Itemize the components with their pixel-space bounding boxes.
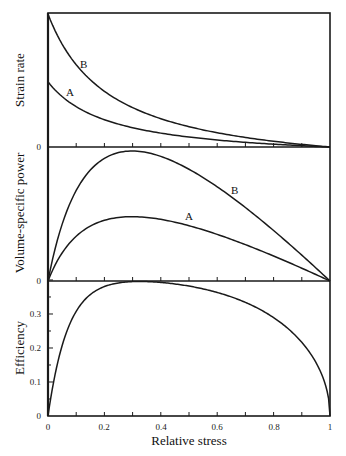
eff-tick-0: 0 [37,411,42,421]
strain-label-b: B [80,58,87,70]
strain-zero-label: 0 [37,142,42,152]
x-tick-0.2: 0.2 [98,422,109,432]
x-tick-0.8: 0.8 [268,422,280,432]
eff-tick-0.2: 0.2 [30,343,41,353]
efficiency-ylabel: Efficiency [12,321,27,375]
x-tick-1: 1 [328,422,333,432]
x-tick-0.6: 0.6 [211,422,223,432]
power-zero-label: 0 [37,276,42,286]
ticks [48,143,302,416]
strain-rate-ylabel: Strain rate [12,53,27,107]
x-tick-0: 0 [46,422,51,432]
efficiency-curve [48,281,330,416]
eff-tick-0.3: 0.3 [30,309,42,319]
eff-tick-0.1: 0.1 [30,377,41,387]
power-ylabel: Volume-specific power [12,152,27,273]
figure: Strain rate Volume-specific power Effici… [0,0,346,456]
x-axis-title: Relative stress [151,433,226,448]
x-tick-0.4: 0.4 [155,422,167,432]
power-curve-a [48,217,330,281]
strain-rate-curve-b [48,14,330,147]
power-label-b: B [231,184,238,196]
strain-rate-curve-a [48,82,330,147]
power-label-a: A [185,210,193,222]
strain-label-a: A [66,86,74,98]
